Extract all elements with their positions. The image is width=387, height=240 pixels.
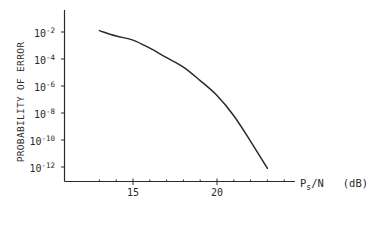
- y-tick-label: 10-10: [29, 134, 55, 147]
- y-tick-exponent: -12: [41, 161, 55, 170]
- y-tick-exponent: -4: [46, 53, 55, 62]
- x-axis-label: Ps/N (dB): [300, 177, 368, 192]
- y-tick-exponent: -8: [46, 107, 55, 116]
- y-tick-base: 10: [34, 28, 46, 39]
- error-probability-curve: [99, 31, 267, 169]
- y-tick-exponent: -10: [41, 134, 55, 143]
- y-axis-label: PROBABILITY OF ERROR: [15, 42, 26, 162]
- x-tick-label-20: 20: [211, 187, 223, 198]
- y-tick-base: 10: [29, 163, 41, 174]
- y-tick-base: 10: [29, 136, 41, 147]
- x-tick-label-15: 15: [127, 187, 139, 198]
- y-tick-label: 10-6: [34, 80, 55, 93]
- y-tick-exponent: -6: [46, 80, 55, 89]
- x-label-rest: /N (dB): [311, 177, 368, 189]
- y-tick-base: 10: [34, 55, 46, 66]
- y-tick-label: 10-2: [34, 26, 55, 39]
- y-tick-base: 10: [34, 82, 46, 93]
- y-tick-label: 10-4: [34, 53, 55, 66]
- y-tick-exponent: -2: [46, 26, 55, 35]
- y-tick-label: 10-8: [34, 107, 55, 120]
- y-tick-base: 10: [34, 109, 46, 120]
- y-tick-label: 10-12: [29, 161, 55, 174]
